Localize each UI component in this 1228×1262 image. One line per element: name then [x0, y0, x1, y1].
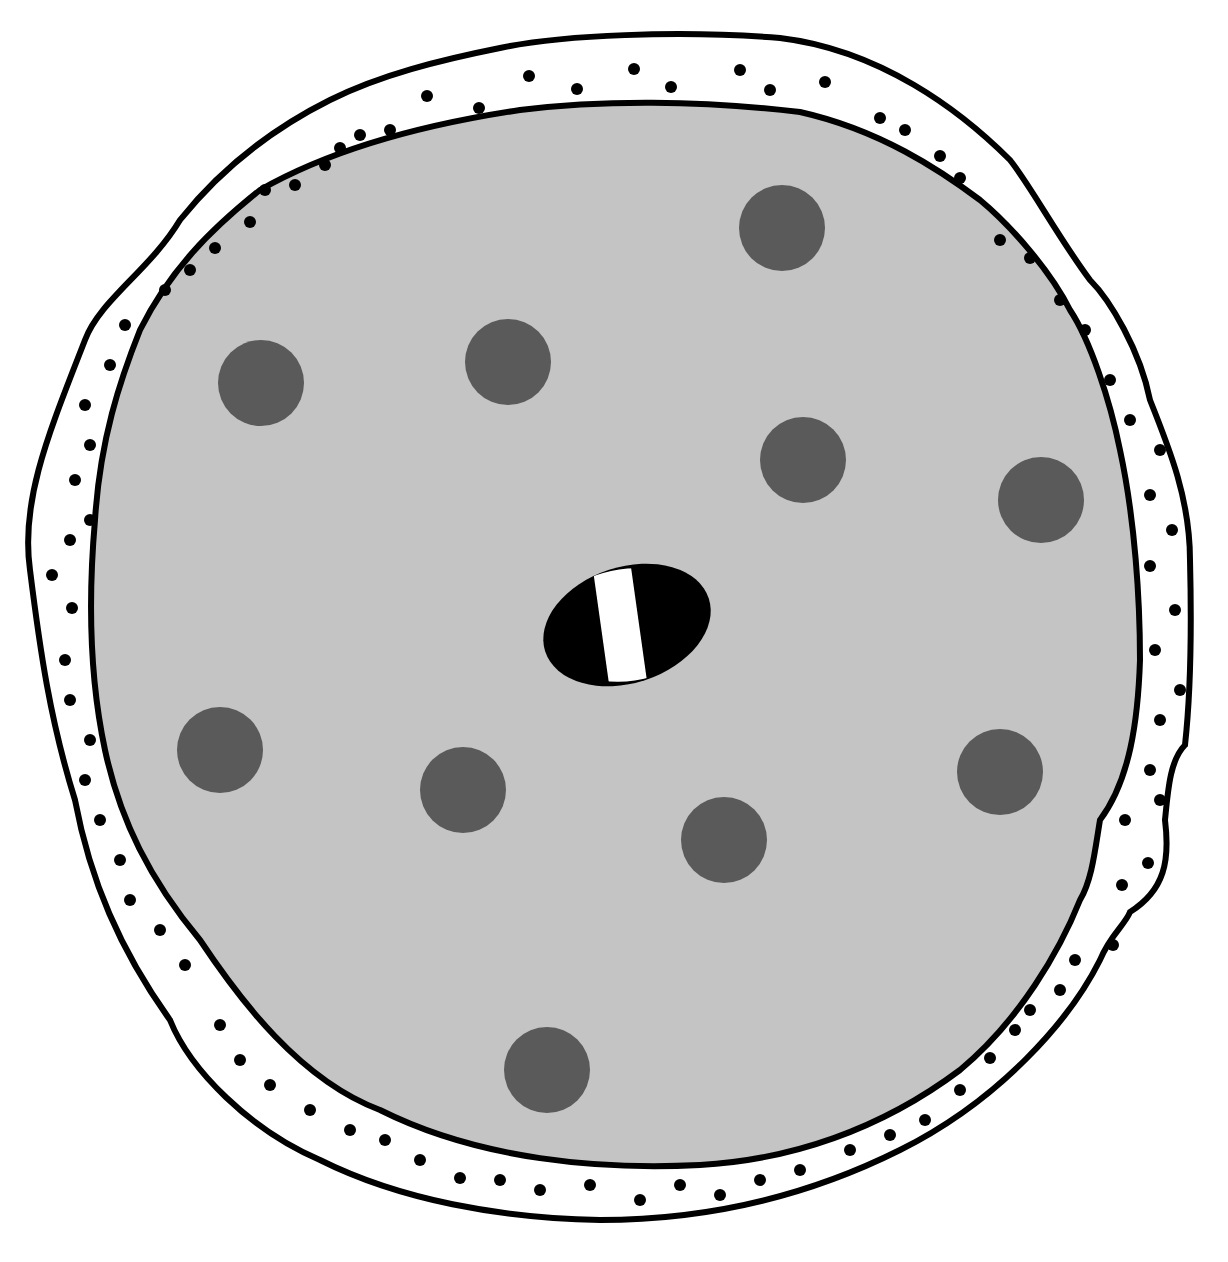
granule: [420, 747, 506, 833]
granule: [957, 729, 1043, 815]
granule: [739, 185, 825, 271]
granule: [681, 797, 767, 883]
cell-diagram: [0, 0, 1228, 1262]
granule: [998, 457, 1084, 543]
granule: [218, 340, 304, 426]
granule: [177, 707, 263, 793]
granule: [465, 319, 551, 405]
granule: [760, 417, 846, 503]
granule: [504, 1027, 590, 1113]
